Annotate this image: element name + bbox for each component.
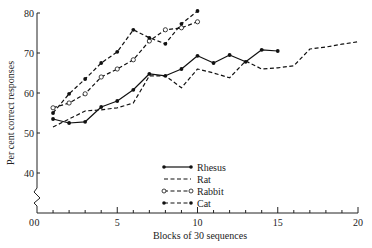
data-point [147, 72, 151, 76]
data-point [147, 36, 151, 40]
legend-item-cat: Cat [162, 198, 211, 209]
x-axis: 05101520 [35, 207, 364, 228]
filled-circle-marker-icon [162, 201, 166, 205]
data-point [67, 121, 71, 125]
data-point [115, 99, 119, 103]
data-point [99, 105, 103, 109]
data-point [195, 20, 199, 24]
data-point [260, 48, 264, 52]
data-point [196, 9, 200, 13]
data-point [67, 92, 71, 96]
x-tick-label: 0 [35, 217, 40, 228]
data-point [51, 111, 55, 115]
y-tick-label: 80 [24, 8, 34, 19]
data-point [196, 54, 200, 58]
data-point [180, 22, 184, 26]
data-point [83, 120, 87, 124]
series-line [53, 11, 198, 113]
x-tick-label: 20 [353, 217, 363, 228]
data-point [131, 58, 135, 62]
legend-label: Rat [197, 174, 211, 185]
plot-area [51, 9, 358, 127]
series-rhesus [51, 48, 280, 125]
filled-circle-marker-icon [162, 165, 166, 169]
data-point [131, 88, 135, 92]
data-point [115, 67, 119, 71]
data-point [99, 61, 103, 65]
data-point [83, 92, 87, 96]
y-tick-label: 50 [24, 128, 34, 139]
y-tick-label: 60 [24, 88, 34, 99]
data-point [51, 106, 55, 110]
legend-item-rat: Rat [164, 174, 211, 185]
series-rabbit [51, 20, 200, 110]
y-axis-line-with-break [34, 13, 40, 213]
data-point [51, 117, 55, 121]
legend-label: Rabbit [197, 186, 224, 197]
data-point [179, 26, 183, 30]
legend-item-rabbit: Rabbit [162, 186, 224, 197]
data-point [276, 49, 280, 53]
open-circle-marker-icon [162, 189, 166, 193]
legend: Rhesus Rat Rabbit Cat [162, 162, 226, 209]
y-axis: 80706050400 [24, 8, 40, 229]
legend-item-rhesus: Rhesus [162, 162, 226, 173]
x-tick-label: 15 [273, 217, 283, 228]
data-point [67, 101, 71, 105]
x-tick-label: 10 [193, 217, 203, 228]
y-tick-label: 40 [24, 168, 34, 179]
series-cat [51, 9, 199, 115]
data-point [99, 75, 103, 79]
data-point [163, 28, 167, 32]
data-point [180, 67, 184, 71]
filled-circle-marker-icon [189, 201, 193, 205]
line-chart: 80706050400 05101520 Blocks of 30 sequen… [0, 0, 372, 248]
data-point [131, 28, 135, 32]
filled-circle-marker-icon [189, 165, 193, 169]
series-line [53, 42, 358, 127]
data-point [228, 53, 232, 57]
x-tick-label: 5 [115, 217, 120, 228]
y-tick-label: 70 [24, 48, 34, 59]
y-axis-title: Per cent correct responses [5, 61, 16, 165]
series-rat [53, 42, 358, 127]
y-tick-label-zero: 0 [29, 217, 34, 228]
data-point [83, 77, 87, 81]
data-point [115, 50, 119, 54]
open-circle-marker-icon [189, 189, 193, 193]
x-axis-title: Blocks of 30 sequences [153, 230, 247, 241]
data-point [212, 61, 216, 65]
legend-label: Rhesus [197, 162, 226, 173]
legend-label: Cat [197, 198, 211, 209]
data-point [164, 42, 168, 46]
